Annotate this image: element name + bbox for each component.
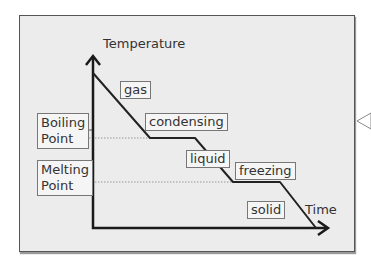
melting-point-label: Melting Point <box>37 160 93 196</box>
pointer-triangle-icon <box>357 113 371 129</box>
gas-label: gas <box>120 81 151 99</box>
y-axis-label: Temperature <box>103 37 185 51</box>
x-axis-label: Time <box>305 203 337 217</box>
solid-label: solid <box>247 201 285 219</box>
freezing-label: freezing <box>235 162 296 180</box>
condensing-label: condensing <box>145 113 228 131</box>
boiling-point-label: Boiling Point <box>37 113 89 149</box>
liquid-label: liquid <box>186 150 230 168</box>
